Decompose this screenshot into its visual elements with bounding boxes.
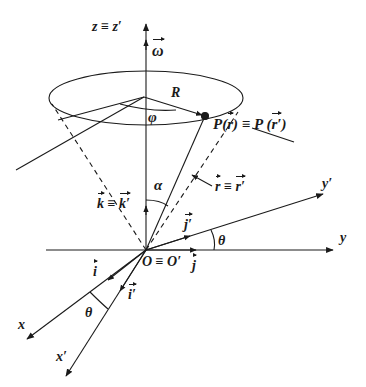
omega-label: ω [152,43,164,59]
y-prime-axis-label: y′ [322,177,332,191]
k-equiv-label: k ≡ k′ [97,197,130,211]
j-prime-label: j′ [184,218,192,232]
j-vector: j [192,259,196,273]
r-equiv: ≡ [220,179,235,194]
x-prime-axis-label: x′ [56,350,67,364]
phi-ref-line [58,97,144,120]
theta-arc-top [211,230,215,250]
r-pointer [192,175,212,186]
p-rprime-vector: r′ [271,117,281,132]
r-equiv-label: r ≡ r′ [215,180,245,194]
omega-symbol: ω [152,43,164,59]
theta-top-label: θ [218,234,225,248]
phi-label: φ [148,110,157,125]
i-vector: i [93,265,97,279]
theta-arc-bottom [90,292,108,309]
i-arrow [108,250,146,280]
alpha-label: α [154,178,162,193]
point-p [202,113,209,120]
point-p-label: P(r) ≡ P (r′) [213,117,286,132]
r-vector: r [215,180,220,194]
radius-label: R [171,86,180,100]
p-close: ) [281,116,286,132]
y-axis-label: y [340,231,346,245]
j-prime-vector: j′ [184,218,192,232]
i-prime-vector: i′ [128,288,136,302]
k-equiv: ≡ [104,196,119,211]
p-mid: ) ≡ P ( [233,116,271,132]
z-axis-label: z ≡ z′ [92,20,122,34]
cone-edge-left [52,104,146,250]
rotating-frame-diagram: z ≡ z′ ω R φ P(r) ≡ P (r′) α r ≡ r′ k ≡ … [0,0,366,387]
diagram-lines [0,0,366,387]
i-prime-label: i′ [128,288,136,302]
p-r-vector: r [227,117,233,132]
rprime-vector: r′ [235,180,244,194]
reference-line [16,97,144,170]
x-axis-label: x [18,318,25,332]
theta-bottom-label: θ [85,306,92,320]
j-prime-arrow [146,236,190,250]
p-open: P( [213,116,227,132]
kprime-vector: k′ [119,197,130,211]
origin-label: O ≡ O′ [142,255,181,269]
k-vector: k [97,197,104,211]
alpha-arc [146,200,168,206]
i-label: i [93,265,97,279]
j-label: j [192,259,196,273]
